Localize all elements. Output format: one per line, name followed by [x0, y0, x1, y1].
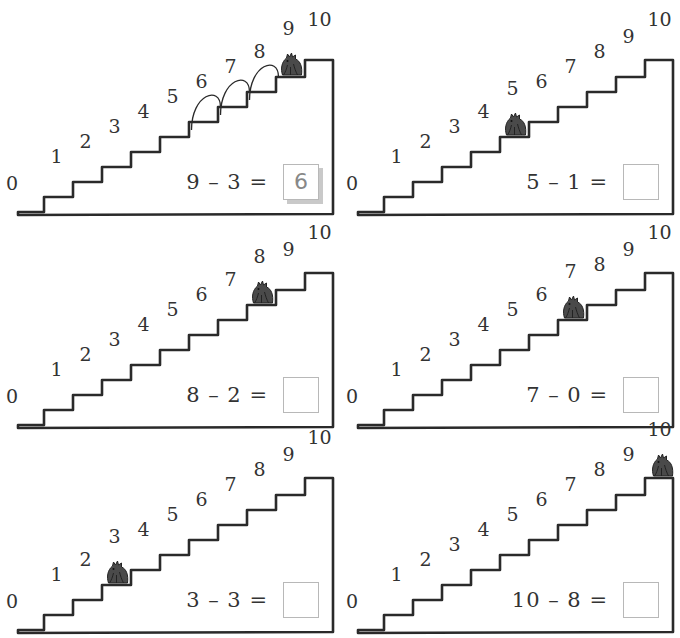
step-label-3: 3 [449, 535, 461, 554]
creature-icon [282, 53, 302, 75]
step-label-3: 3 [449, 330, 461, 349]
step-label-5: 5 [167, 87, 179, 106]
step-label-2: 2 [420, 550, 432, 569]
step-label-6: 6 [196, 285, 208, 304]
step-label-5: 5 [167, 505, 179, 524]
step-label-1: 1 [51, 147, 63, 166]
creature-icon [253, 281, 273, 303]
step-label-0: 0 [346, 174, 358, 193]
hop-arc [192, 95, 221, 130]
staircase-panel-2: 0123456789105 – 1 = [340, 0, 680, 220]
step-label-1: 1 [391, 360, 403, 379]
step-label-6: 6 [196, 72, 208, 91]
step-label-4: 4 [478, 315, 490, 334]
answer-box[interactable] [283, 377, 319, 413]
equation-text: 10 – 8 = [512, 588, 608, 612]
step-label-4: 4 [138, 520, 150, 539]
step-label-9: 9 [283, 240, 295, 259]
step-label-2: 2 [80, 345, 92, 364]
step-label-10: 10 [648, 420, 672, 439]
step-label-4: 4 [478, 102, 490, 121]
step-label-10: 10 [308, 223, 332, 242]
step-label-10: 10 [648, 223, 672, 242]
step-label-2: 2 [80, 550, 92, 569]
step-label-3: 3 [109, 527, 121, 546]
hop-arc [221, 80, 250, 115]
step-label-8: 8 [594, 255, 606, 274]
step-label-8: 8 [594, 42, 606, 61]
equation-text: 5 – 1 = [526, 170, 608, 194]
step-label-0: 0 [6, 592, 18, 611]
creature-icon [564, 296, 584, 318]
equation-text: 9 – 3 = [186, 170, 268, 194]
answer-box[interactable] [623, 164, 659, 200]
step-label-6: 6 [536, 72, 548, 91]
step-label-4: 4 [138, 315, 150, 334]
step-label-5: 5 [507, 300, 519, 319]
staircase-panel-4: 0123456789107 – 0 = [340, 213, 680, 433]
equation-text: 7 – 0 = [526, 383, 608, 407]
step-label-7: 7 [225, 270, 237, 289]
answer-box[interactable] [283, 582, 319, 618]
step-label-1: 1 [391, 565, 403, 584]
step-label-9: 9 [283, 445, 295, 464]
step-label-5: 5 [167, 300, 179, 319]
step-label-10: 10 [308, 428, 332, 447]
step-label-0: 0 [346, 387, 358, 406]
hop-arc [250, 65, 279, 100]
step-label-5: 5 [507, 505, 519, 524]
step-label-0: 0 [6, 387, 18, 406]
equation-text: 8 – 2 = [186, 383, 268, 407]
step-label-4: 4 [478, 520, 490, 539]
step-label-7: 7 [225, 57, 237, 76]
step-label-9: 9 [623, 240, 635, 259]
creature-icon [653, 454, 673, 476]
answer-box[interactable]: 6 [283, 164, 319, 200]
step-label-2: 2 [420, 132, 432, 151]
step-label-7: 7 [225, 475, 237, 494]
step-label-6: 6 [196, 490, 208, 509]
staircase-panel-6: 01234567891010 – 8 = [340, 418, 680, 638]
step-label-2: 2 [80, 132, 92, 151]
step-label-0: 0 [346, 592, 358, 611]
step-label-7: 7 [565, 57, 577, 76]
step-label-9: 9 [623, 27, 635, 46]
staircase-panel-3: 0123456789108 – 2 = [0, 213, 340, 433]
step-label-6: 6 [536, 490, 548, 509]
step-label-3: 3 [109, 117, 121, 136]
creature-icon [108, 561, 128, 583]
creature-icon [506, 113, 526, 135]
step-label-8: 8 [254, 42, 266, 61]
step-label-4: 4 [138, 102, 150, 121]
answer-box[interactable] [623, 377, 659, 413]
step-label-9: 9 [283, 19, 295, 38]
step-label-8: 8 [254, 247, 266, 266]
staircase-panel-5: 0123456789103 – 3 = [0, 418, 340, 638]
step-label-7: 7 [565, 262, 577, 281]
step-label-8: 8 [594, 460, 606, 479]
step-label-3: 3 [449, 117, 461, 136]
step-label-3: 3 [109, 330, 121, 349]
step-label-0: 0 [6, 174, 18, 193]
staircase-panel-1: 0123456789109 – 3 =6 [0, 0, 340, 220]
step-label-9: 9 [623, 445, 635, 464]
step-label-10: 10 [308, 10, 332, 29]
step-label-2: 2 [420, 345, 432, 364]
step-label-1: 1 [51, 565, 63, 584]
step-label-1: 1 [51, 360, 63, 379]
answer-box[interactable] [623, 582, 659, 618]
equation-text: 3 – 3 = [186, 588, 268, 612]
step-label-7: 7 [565, 475, 577, 494]
step-label-6: 6 [536, 285, 548, 304]
step-label-10: 10 [648, 10, 672, 29]
step-label-1: 1 [391, 147, 403, 166]
step-label-5: 5 [507, 79, 519, 98]
step-label-8: 8 [254, 460, 266, 479]
